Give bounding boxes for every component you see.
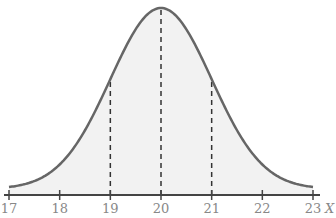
chart-canvas: 17181920212223 X bbox=[0, 0, 336, 218]
x-tick-label: 22 bbox=[254, 201, 271, 216]
x-tick-label: 21 bbox=[203, 201, 220, 216]
normal-distribution-chart: 17181920212223 X bbox=[0, 0, 336, 218]
x-tick-label: 19 bbox=[102, 201, 119, 216]
x-tick-label: 20 bbox=[153, 201, 170, 216]
x-axis-label: X bbox=[324, 201, 335, 216]
x-tick-label: 17 bbox=[1, 201, 18, 216]
x-tick-label: 23 bbox=[305, 201, 322, 216]
x-tick-label: 18 bbox=[51, 201, 68, 216]
